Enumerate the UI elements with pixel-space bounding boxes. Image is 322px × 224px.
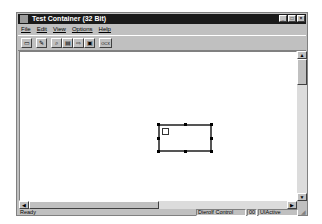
resize-handle-ne[interactable] <box>210 123 213 126</box>
resize-handle-w[interactable] <box>157 137 160 140</box>
app-window: Test Container (32 Bit) _ □ × File Edit … <box>16 12 308 216</box>
window-title: Test Container (32 Bit) <box>32 15 106 22</box>
properties-button[interactable]: ⌕ <box>51 38 62 48</box>
insert-control-button[interactable]: ✎ <box>36 38 47 48</box>
scroll-right-button[interactable]: ▶ <box>287 201 297 209</box>
new-icon: ▭ <box>24 40 30 46</box>
ambient-icon: ▣ <box>87 40 93 46</box>
container-client-area[interactable] <box>19 51 297 201</box>
menu-help[interactable]: Help <box>99 25 111 34</box>
ambient-button[interactable]: ▣ <box>84 38 95 48</box>
new-button[interactable]: ▭ <box>21 38 32 48</box>
embedded-control[interactable] <box>158 124 212 152</box>
arrow-left-icon: ◀ <box>22 202 26 208</box>
menu-bar: File Edit View Options Help <box>19 25 111 34</box>
app-icon[interactable] <box>20 15 28 23</box>
scroll-left-button[interactable]: ◀ <box>19 201 29 209</box>
status-text: Ready <box>20 209 36 216</box>
vertical-scrollbar[interactable]: ▲ ▼ <box>297 51 307 201</box>
ocx-button[interactable]: OCX <box>99 38 112 48</box>
scroll-down-button[interactable]: ▼ <box>297 193 307 201</box>
resize-handle-n[interactable] <box>184 123 187 126</box>
status-bar: Ready Dierolf Control 00 UIActive ◢ <box>18 209 306 216</box>
menu-options[interactable]: Options <box>72 25 93 34</box>
events-icon: ⇨ <box>76 40 81 46</box>
control-icon <box>162 128 169 135</box>
ocx-icon: OCX <box>101 41 110 46</box>
resize-handle-e[interactable] <box>210 137 213 140</box>
arrow-right-icon: ▶ <box>290 202 294 208</box>
invoke-methods-icon: ▤ <box>65 40 71 46</box>
vertical-scroll-thumb[interactable] <box>297 59 307 85</box>
horizontal-scroll-thumb[interactable] <box>29 201 159 209</box>
arrow-down-icon: ▼ <box>300 194 305 200</box>
title-bar[interactable]: Test Container (32 Bit) _ □ × <box>18 14 306 24</box>
resize-handle-s[interactable] <box>184 150 187 153</box>
menu-file[interactable]: File <box>21 25 31 34</box>
horizontal-scrollbar[interactable]: ◀ ▶ <box>19 201 297 209</box>
insert-control-icon: ✎ <box>39 40 44 46</box>
menu-edit[interactable]: Edit <box>37 25 47 34</box>
resize-handle-sw[interactable] <box>157 150 160 153</box>
minimize-button[interactable]: _ <box>279 15 287 22</box>
status-code: 00 <box>247 209 257 216</box>
maximize-button[interactable]: □ <box>288 15 296 22</box>
properties-icon: ⌕ <box>55 40 58 46</box>
size-grip-icon[interactable]: ◢ <box>301 209 306 216</box>
resize-handle-se[interactable] <box>210 150 213 153</box>
scroll-up-button[interactable]: ▲ <box>297 51 307 59</box>
arrow-up-icon: ▲ <box>300 52 305 58</box>
events-button[interactable]: ⇨ <box>73 38 84 48</box>
status-control-name: Dierolf Control <box>196 209 246 216</box>
invoke-methods-button[interactable]: ▤ <box>62 38 73 48</box>
status-state: UIActive <box>258 209 298 216</box>
menu-view[interactable]: View <box>53 25 66 34</box>
toolbar: ▭ ✎ ⌕ ▤ ⇨ ▣ OCX <box>18 35 306 51</box>
resize-handle-nw[interactable] <box>157 123 160 126</box>
close-button[interactable]: × <box>297 15 305 22</box>
